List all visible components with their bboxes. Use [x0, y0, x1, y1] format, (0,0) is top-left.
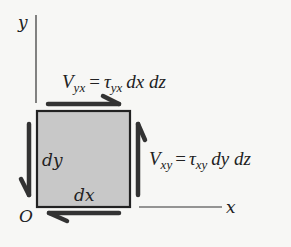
shear-element-diagram: y x dy dx O Vyx=τyxdx dz Vxy=τxydy dz [0, 0, 291, 247]
right-V-sub: xy [160, 157, 173, 172]
right-tau-sub: xy [195, 157, 208, 172]
top-rest: dx dz [126, 71, 166, 92]
left-shear-arrow [21, 124, 29, 195]
origin-label: O [19, 206, 33, 226]
svg-text:Vyx=τyxdx dz: Vyx=τyxdx dz [62, 71, 166, 95]
height-label: dy [42, 150, 63, 170]
top-shear-arrow [48, 96, 119, 104]
top-tau-sub: yx [109, 80, 123, 95]
right-eq: = [175, 148, 186, 169]
top-eq: = [89, 71, 100, 92]
x-axis-label: x [226, 197, 236, 217]
width-label: dx [74, 185, 95, 205]
bottom-shear-arrow [49, 213, 119, 221]
top-V-sub: yx [72, 80, 86, 95]
right-force-equation: Vxy=τxydy dz [149, 148, 251, 172]
right-rest: dy dz [211, 148, 251, 169]
right-shear-arrow [138, 124, 145, 195]
top-force-equation: Vyx=τyxdx dz [62, 71, 166, 95]
svg-text:Vxy=τxydy dz: Vxy=τxydy dz [149, 148, 251, 172]
y-axis-label: y [17, 12, 28, 32]
